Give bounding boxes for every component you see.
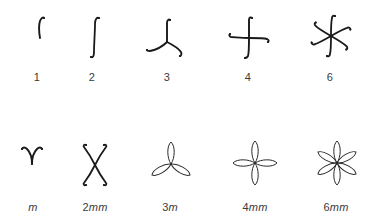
four-fold-pinwheel-icon <box>229 17 269 59</box>
label-4: 4 <box>245 71 251 83</box>
six-fold-pinwheel-icon <box>310 15 352 57</box>
three-petal-icon <box>150 142 191 178</box>
v-shaped-mirror-icon <box>21 148 43 165</box>
two-fold-s-curve-icon <box>90 17 100 58</box>
label-2mm: 2mm <box>82 201 107 213</box>
single-arm-icon <box>39 17 45 38</box>
x-shaped-mirror-icon <box>84 144 107 186</box>
label-2: 2 <box>89 71 95 83</box>
symmetry-diagram <box>0 0 377 224</box>
label-6: 6 <box>327 71 333 83</box>
three-fold-pinwheel-icon <box>146 19 182 57</box>
label-m: m <box>28 201 37 213</box>
label-1: 1 <box>34 71 40 83</box>
six-petal-icon <box>316 141 357 185</box>
label-3: 3 <box>164 71 170 83</box>
label-6mm: 6mm <box>323 201 348 213</box>
four-petal-icon <box>233 141 277 185</box>
label-4mm: 4mm <box>242 201 267 213</box>
label-3m: 3m <box>162 201 178 213</box>
